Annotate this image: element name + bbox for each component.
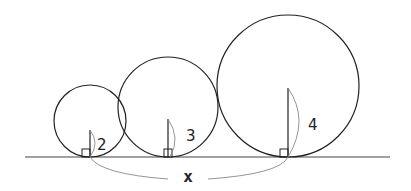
diagram-canvas: 2 3 4 x — [0, 0, 411, 191]
span-label-x: x — [183, 167, 193, 186]
radius-label-large: 4 — [308, 116, 318, 134]
span-brace-left — [90, 157, 168, 179]
span-brace-right — [208, 157, 288, 179]
circle-small: 2 — [54, 85, 126, 157]
radius-brace-large — [288, 88, 299, 157]
circle-large: 4 — [217, 15, 359, 157]
radius-brace-small — [90, 130, 95, 157]
circle-medium: 3 — [118, 57, 218, 157]
radius-label-medium: 3 — [186, 127, 196, 145]
diagram: 2 3 4 x — [0, 0, 411, 191]
radius-label-small: 2 — [97, 136, 107, 154]
right-angle-icon — [280, 149, 288, 157]
